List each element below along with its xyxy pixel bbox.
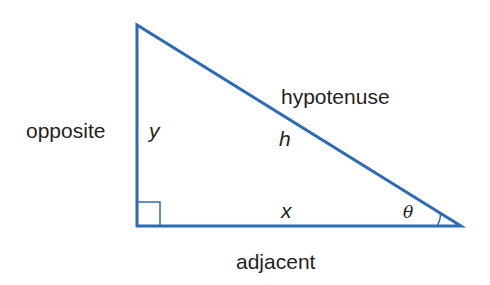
label-h: h	[279, 128, 291, 149]
label-adjacent: adjacent	[236, 251, 315, 272]
label-x: x	[281, 200, 292, 221]
angle-arc-theta	[437, 214, 441, 227]
label-hypotenuse: hypotenuse	[281, 86, 390, 107]
triangle-outline	[137, 25, 461, 226]
triangle-diagram: opposite y hypotenuse h x θ adjacent	[0, 0, 490, 285]
label-opposite: opposite	[26, 120, 105, 141]
right-angle-marker	[137, 202, 160, 226]
label-y: y	[149, 120, 160, 141]
label-theta: θ	[403, 204, 413, 221]
triangle-shape	[0, 0, 490, 285]
